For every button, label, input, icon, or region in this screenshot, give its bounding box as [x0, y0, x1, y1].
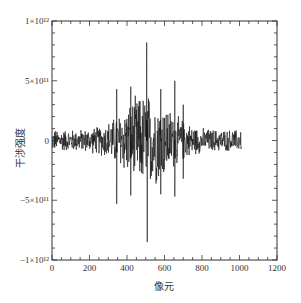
x-tick-label: 1200 [268, 263, 287, 273]
interferogram-chart: 020040060080010001200 −1×10¹²−5×10¹¹05×1… [0, 0, 301, 303]
signal-trace [52, 43, 241, 243]
y-tick-label: 1×10¹² [25, 16, 49, 26]
y-tick-label: 5×10¹¹ [25, 76, 49, 86]
x-tick-label: 600 [158, 263, 172, 273]
x-tick-label: 200 [83, 263, 97, 273]
y-tick-label: −1×10¹² [20, 255, 49, 265]
y-axis-title: 干涉强度 [14, 128, 26, 168]
y-tick-label: −5×10¹¹ [20, 195, 49, 205]
x-axis-title: 像元 [154, 281, 174, 292]
x-tick-label: 1000 [231, 263, 250, 273]
x-tick-label: 800 [195, 263, 209, 273]
x-tick-label: 0 [50, 263, 55, 273]
y-tick-label: 0 [45, 136, 50, 146]
x-tick-label: 400 [120, 263, 134, 273]
